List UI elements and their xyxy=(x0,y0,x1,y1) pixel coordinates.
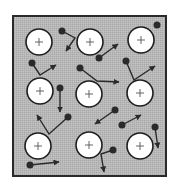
electron-dot-icon xyxy=(57,85,64,92)
electron-dot-icon xyxy=(77,65,84,72)
positive-ion-icon xyxy=(127,80,153,106)
electron-dot-icon xyxy=(65,114,72,121)
positive-ion-icon xyxy=(26,29,52,55)
electron-dot-icon xyxy=(152,124,159,131)
electron-dot-icon xyxy=(110,147,117,154)
electron-dot-icon xyxy=(112,107,119,114)
ion-cores xyxy=(25,27,154,159)
positive-ion-icon xyxy=(76,132,102,158)
electron-dot-icon xyxy=(59,28,66,35)
positive-ion-icon xyxy=(127,133,153,159)
metal-lattice-diagram xyxy=(0,0,179,193)
electron-dot-icon xyxy=(29,60,36,67)
electron xyxy=(154,22,161,29)
electron-dot-icon xyxy=(123,58,130,65)
electron-dot-icon xyxy=(27,162,34,169)
positive-ion-icon xyxy=(25,133,51,159)
positive-ion-icon xyxy=(128,27,154,53)
electron-dot-icon xyxy=(96,55,103,62)
positive-ion-icon xyxy=(76,81,102,107)
positive-ion-icon xyxy=(27,78,53,104)
electron-dot-icon xyxy=(154,22,161,29)
positive-ion-icon xyxy=(77,29,103,55)
electron-dot-icon xyxy=(119,122,126,129)
